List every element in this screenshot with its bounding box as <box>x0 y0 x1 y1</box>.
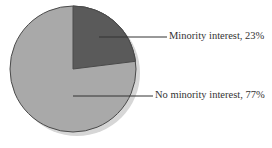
label-minority: Minority interest, 23% <box>169 30 264 41</box>
label-no-minority: No minority interest, 77% <box>155 89 265 100</box>
pie-chart <box>0 0 272 148</box>
